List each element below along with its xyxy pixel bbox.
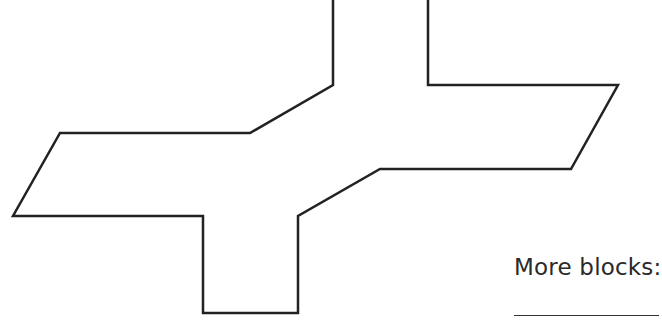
answer-blank-line[interactable] xyxy=(514,315,659,316)
more-blocks-label: More blocks: xyxy=(514,254,662,280)
